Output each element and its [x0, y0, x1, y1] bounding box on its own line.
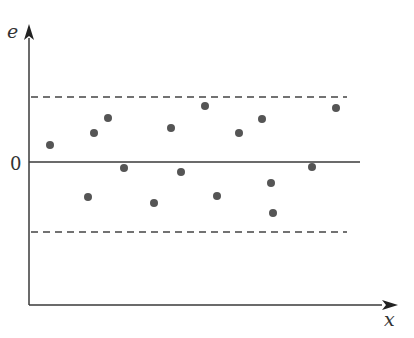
- data-point: [150, 199, 158, 207]
- data-point: [104, 114, 112, 122]
- data-point: [177, 168, 185, 176]
- data-point: [235, 129, 243, 137]
- data-point: [332, 104, 340, 112]
- data-point: [308, 163, 316, 171]
- data-point: [258, 115, 266, 123]
- data-point: [46, 141, 54, 149]
- data-points: [46, 102, 340, 217]
- data-point: [201, 102, 209, 110]
- data-point: [267, 179, 275, 187]
- data-point: [167, 124, 175, 132]
- y-axis-arrow-icon: [24, 24, 34, 40]
- data-point: [269, 209, 277, 217]
- data-point: [84, 193, 92, 201]
- residual-plot: e 0 x: [0, 0, 414, 338]
- data-point: [213, 192, 221, 200]
- y-axis-label: e: [7, 20, 18, 42]
- x-axis-label: x: [384, 308, 395, 330]
- data-point: [90, 129, 98, 137]
- zero-tick-label: 0: [10, 153, 21, 174]
- data-point: [120, 164, 128, 172]
